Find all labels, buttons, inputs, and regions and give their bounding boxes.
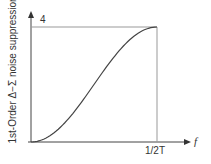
noise-suppression-curve xyxy=(31,27,157,142)
plot-area xyxy=(0,0,211,164)
y-axis-label: 1st-Order Δ−Σ noise suppression xyxy=(7,16,18,144)
y-axis-arrow-icon xyxy=(28,11,34,18)
y-tick-max: 4 xyxy=(40,14,46,25)
x-axis-label: f xyxy=(194,135,197,147)
x-axis-arrow-icon xyxy=(184,139,191,145)
x-tick-nyquist: 1/2T xyxy=(145,145,165,156)
